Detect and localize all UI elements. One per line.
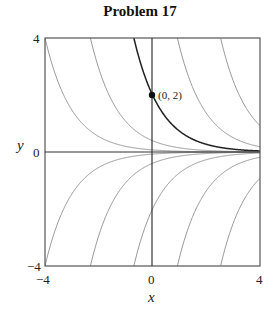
point-annotation: (0, 2) (158, 89, 182, 102)
y-axis-label: y (15, 137, 24, 153)
y-tick-4: 4 (33, 31, 40, 46)
y-tick-0: 0 (33, 145, 40, 160)
x-axis-label: x (147, 289, 155, 305)
solution-curve (177, 157, 260, 266)
x-tick-neg4: −4 (36, 272, 50, 287)
solution-curve (134, 153, 260, 267)
solution-curve (177, 37, 260, 146)
solution-curve (221, 178, 260, 265)
x-tick-4: 4 (256, 272, 263, 287)
plot-area: 4 0 −4 −4 0 4 x y (0, 2) (0, 0, 280, 316)
solution-curve (221, 39, 260, 126)
solution-curve (90, 152, 260, 267)
x-tick-0: 0 (148, 272, 155, 287)
point-marker (149, 92, 155, 98)
